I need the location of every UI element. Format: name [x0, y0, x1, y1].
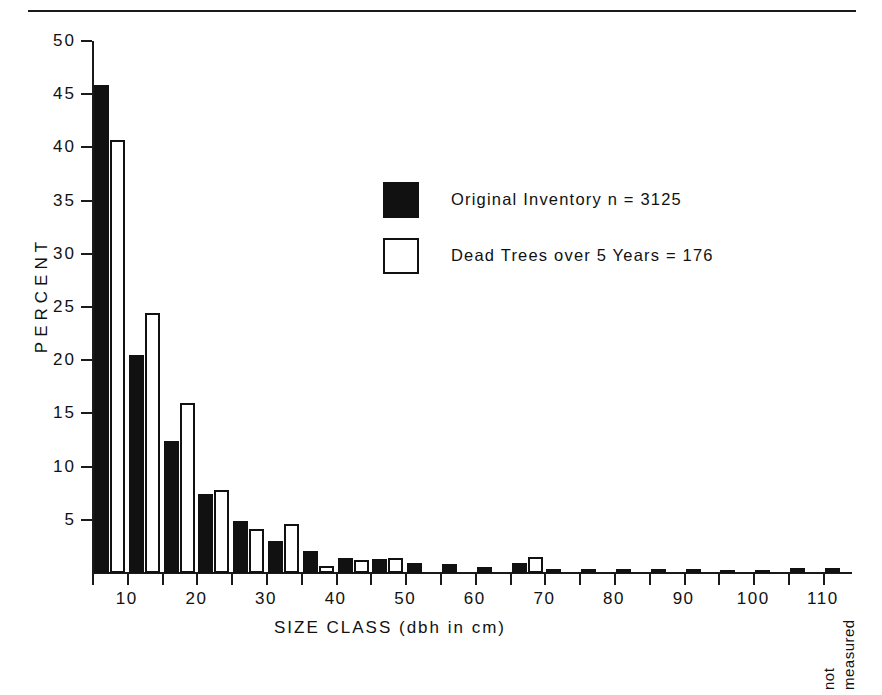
x-axis-tick: [266, 574, 268, 585]
legend-swatch-solid-icon: [383, 182, 419, 218]
bar-dead-trees: [249, 529, 264, 573]
y-axis-tick: [81, 412, 92, 414]
header-rule: [28, 10, 856, 12]
bar-original-inventory: [755, 570, 770, 573]
x-axis-tick: [788, 574, 790, 585]
not-measured-line-2: measured: [840, 619, 857, 690]
bar-dead-trees: [388, 558, 403, 573]
y-axis-tick-label: 50: [32, 32, 76, 49]
bar-original-inventory: [581, 569, 596, 573]
x-axis-tick: [231, 574, 233, 585]
y-axis-tick: [81, 146, 92, 148]
bar-original-inventory: [442, 564, 457, 573]
bar-original-inventory: [686, 569, 701, 573]
bar-original-inventory: [616, 569, 631, 573]
bar-original-inventory: [825, 568, 840, 573]
x-axis-tick: [92, 574, 94, 585]
x-axis-tick: [405, 574, 407, 585]
x-axis-tick-label: 50: [375, 589, 435, 609]
bar-original-inventory: [164, 441, 179, 573]
x-axis-tick-label: 40: [306, 589, 366, 609]
x-axis-tick-label: 70: [514, 589, 574, 609]
x-axis-tick: [823, 574, 825, 585]
x-axis-tick: [475, 574, 477, 585]
figure-canvas: 5045403530252015105 10203040506070809010…: [0, 0, 882, 695]
x-axis-title: SIZE CLASS (dbh in cm): [150, 618, 630, 638]
bar-original-inventory: [651, 569, 666, 573]
x-axis-tick-label: 100: [723, 589, 783, 609]
bar-original-inventory: [546, 569, 561, 573]
x-axis-tick: [370, 574, 372, 585]
x-axis-tick: [440, 574, 442, 585]
y-axis-tick: [81, 93, 92, 95]
x-axis-tick: [544, 574, 546, 585]
bar-dead-trees: [180, 403, 195, 573]
x-axis-tick: [196, 574, 198, 585]
y-axis-tick-label: 40: [32, 138, 76, 155]
bar-dead-trees: [145, 313, 160, 573]
bar-original-inventory: [338, 558, 353, 573]
bar-original-inventory: [790, 568, 805, 573]
x-axis-tick-label: 60: [445, 589, 505, 609]
y-axis-tick: [81, 306, 92, 308]
bar-original-inventory: [303, 551, 318, 573]
x-axis-tick: [649, 574, 651, 585]
legend-label-original-inventory: Original Inventory n = 3125: [451, 190, 682, 209]
x-axis-tick: [718, 574, 720, 585]
bar-dead-trees: [354, 560, 369, 573]
bar-dead-trees: [284, 524, 299, 573]
bar-original-inventory: [129, 355, 144, 573]
x-axis-tick-label: 80: [584, 589, 644, 609]
x-axis-tick-label: 20: [166, 589, 226, 609]
x-axis-tick: [301, 574, 303, 585]
bar-original-inventory: [198, 494, 213, 573]
x-axis-tick: [510, 574, 512, 585]
bar-original-inventory: [512, 563, 527, 573]
bar-original-inventory: [94, 85, 109, 573]
bar-original-inventory: [407, 563, 422, 573]
x-axis-tick: [336, 574, 338, 585]
legend: Original Inventory n = 3125 Dead Trees o…: [383, 182, 803, 294]
x-axis-tick-label: 30: [236, 589, 296, 609]
x-axis-tick: [162, 574, 164, 585]
y-axis-tick: [81, 359, 92, 361]
legend-item-original-inventory: Original Inventory n = 3125: [383, 182, 803, 238]
bar-dead-trees: [319, 566, 334, 573]
not-measured-line-1: not: [820, 668, 837, 690]
y-axis-tick-label: 45: [32, 85, 76, 102]
bar-dead-trees: [528, 557, 543, 573]
x-axis-tick-label: 10: [97, 589, 157, 609]
bar-original-inventory: [268, 541, 283, 573]
y-axis-tick-label: 5: [32, 511, 76, 528]
y-axis-tick: [81, 519, 92, 521]
y-axis-tick: [81, 200, 92, 202]
x-axis-tick: [753, 574, 755, 585]
x-axis-tick-label: 90: [654, 589, 714, 609]
x-axis-tick: [127, 574, 129, 585]
legend-item-dead-trees: Dead Trees over 5 Years = 176: [383, 238, 803, 294]
y-axis-tick-label: 10: [32, 458, 76, 475]
bar-dead-trees: [110, 140, 125, 573]
y-axis-tick-label: 15: [32, 404, 76, 421]
y-axis-tick-label: 35: [32, 192, 76, 209]
x-axis-tick: [684, 574, 686, 585]
x-axis-tick: [614, 574, 616, 585]
legend-label-dead-trees: Dead Trees over 5 Years = 176: [451, 246, 714, 265]
y-axis-tick: [81, 253, 92, 255]
y-axis-title: PERCENT: [32, 225, 52, 365]
y-axis-tick: [81, 40, 92, 42]
not-measured-label: not measured: [800, 600, 882, 692]
bar-original-inventory: [720, 570, 735, 573]
bar-dead-trees: [214, 490, 229, 573]
legend-swatch-hollow-icon: [383, 238, 419, 274]
y-axis-tick: [81, 466, 92, 468]
x-axis-tick: [579, 574, 581, 585]
bar-original-inventory: [372, 559, 387, 573]
bar-original-inventory: [477, 567, 492, 573]
bar-original-inventory: [233, 521, 248, 573]
